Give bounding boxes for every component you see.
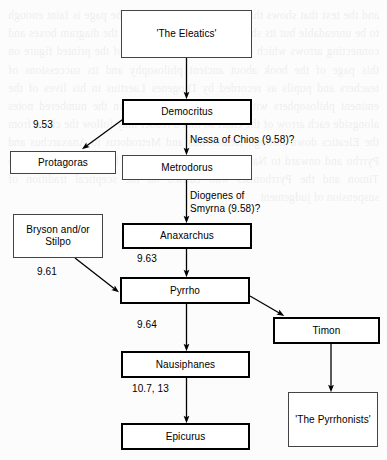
node-metrodorus-label: Metrodorus [161,162,213,174]
node-protagoras-label: Protagoras [38,157,88,169]
connector-pyrrho-timon [250,296,281,314]
node-epicurus-label: Epicurus [166,431,206,443]
node-timon-label: Timon [313,325,341,337]
node-anaxarchus-label: Anaxarchus [160,230,214,242]
node-eleatics-label: 'The Eleatics' [156,28,216,40]
node-anaxarchus[interactable]: Anaxarchus [122,223,252,249]
node-eleatics[interactable]: 'The Eleatics' [121,10,252,58]
node-metrodorus[interactable]: Metrodorus [122,155,252,180]
edge-label-metrodorus-anaxarchus: Diogenes of Smyrna (9.58)? [190,190,260,215]
node-timon[interactable]: Timon [273,317,380,344]
edge-label-pyrrho-nausiphanes: 9.64 [137,319,157,332]
edge-label-democritus-metrodorus: Nessa of Chios (9.58)? [190,134,294,147]
node-pyrrhonists-label: 'The Pyrrhonists' [295,414,371,426]
node-democritus[interactable]: Democritus [122,99,252,125]
node-bryson-stilpo[interactable]: Bryson and/or Stilpo [13,214,103,258]
edge-label-anaxarchus-pyrrho: 9.63 [137,253,157,266]
connector-bryson-pyrrho [75,258,116,290]
edge-label-nausiphanes-epicurus: 10.7, 13 [132,383,169,396]
node-pyrrho[interactable]: Pyrrho [120,277,250,304]
node-epicurus[interactable]: Epicurus [121,423,250,450]
node-pyrrho-label: Pyrrho [170,285,200,297]
connector-democritus-protagoras [85,119,124,148]
edge-label-bryson-pyrrho: 9.61 [37,266,57,279]
node-nausiphanes[interactable]: Nausiphanes [121,351,250,378]
node-bryson-stilpo-label: Bryson and/or Stilpo [26,224,90,248]
node-nausiphanes-label: Nausiphanes [156,359,215,371]
diagram-page: and the text that shows through from the… [0,0,387,460]
node-pyrrhonists[interactable]: 'The Pyrrhonists' [288,392,378,447]
node-democritus-label: Democritus [161,106,213,118]
edge-label-democritus-protagoras: 9.53 [33,119,53,132]
node-protagoras[interactable]: Protagoras [10,151,116,174]
